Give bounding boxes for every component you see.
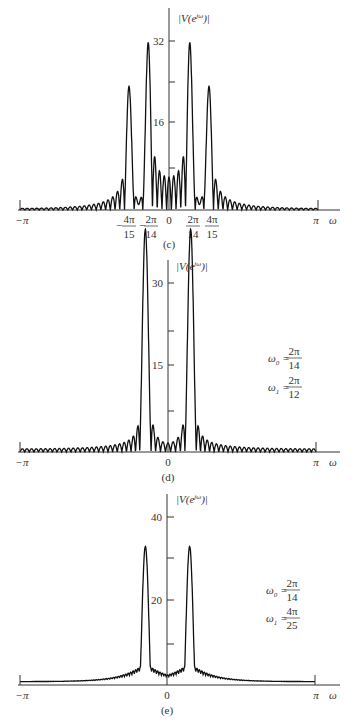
xtick-num: 2π [145,213,157,225]
ytick-label-32: 32 [153,35,164,47]
ylabel-d: |V(ejω)| [176,260,208,273]
annotation-omega1: ω1= 4π 25 [266,605,300,631]
xtick-label-pi: π [313,456,319,468]
svg-text:4π: 4π [286,605,298,617]
panel-e: |V(ejω)| 40 20 −π 0 π ω ω0= 2π 14 ω1= 4π… [16,493,340,717]
svg-text:ω1=: ω1= [266,612,288,627]
xlabel-omega: ω [329,689,337,701]
ylabel-e: |V(ejω)| [176,493,208,506]
annotation-omega1: ω1= 2π 12 [268,374,302,400]
xtick-label-pi: π [313,214,319,226]
xtick-label-neg-pi: −π [16,689,29,701]
xtick-label-zero: 0 [165,456,171,468]
ytick-label-30: 30 [152,277,164,289]
svg-text:ω0=: ω0= [268,352,290,367]
xtick-den: 14 [146,228,158,240]
svg-text:ω0=: ω0= [266,584,288,599]
xtick-den: 15 [207,228,219,240]
xtick-label-pi: π [313,689,319,701]
svg-text:14: 14 [287,591,299,603]
xtick-label-neg-pi: −π [16,456,29,468]
xtick-den: 15 [124,228,136,240]
figure: |V(ejω)| 32 16 −π 0 π ω − 4π 15 − 2π 14 … [0,0,354,726]
caption-e: (e) [161,704,174,717]
svg-text:2π: 2π [288,345,300,357]
xtick-num: 4π [206,213,218,225]
xlabel-omega: ω [329,456,337,468]
svg-text:14: 14 [289,359,301,371]
svg-text:ω1=: ω1= [268,381,290,396]
xtick-label-neg-pi: −π [16,214,29,226]
ytick-label-40: 40 [151,511,163,523]
svg-text:25: 25 [287,619,299,631]
xtick-label-zero: 0 [166,214,172,226]
caption-d: (d) [162,471,175,484]
ytick-label-16: 16 [153,116,165,128]
minus-sign: − [139,219,145,231]
minus-sign: − [116,219,122,231]
xtick-num: 4π [123,213,135,225]
ylabel-c: |V(ejω)| [178,12,210,25]
svg-text:2π: 2π [286,577,298,589]
panel-c: |V(ejω)| 32 16 −π 0 π ω − 4π 15 − 2π 14 … [16,8,340,251]
xtick-label-zero: 0 [164,689,170,701]
panel-d: |V(ejω)| 30 15 −π 0 π ω ω0= 2π 14 ω1= 2π… [16,229,340,484]
svg-text:2π: 2π [288,374,300,386]
ytick-label-15: 15 [152,359,164,371]
xtick-num: 2π [187,213,199,225]
annotation-omega0: ω0= 2π 14 [268,345,302,371]
ytick-label-20: 20 [151,594,163,606]
annotation-omega0: ω0= 2π 14 [266,577,300,603]
svg-text:12: 12 [289,388,300,400]
xlabel-omega: ω [329,214,337,226]
caption-c: (c) [163,238,176,251]
